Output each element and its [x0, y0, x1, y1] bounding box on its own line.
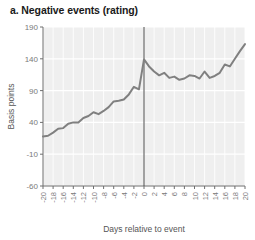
x-axis-tick-label: 4: [160, 192, 169, 196]
y-axis-tick-label: -60: [26, 182, 38, 191]
x-axis-tick-label: -12: [79, 192, 88, 203]
x-axis-tick-label: -14: [69, 192, 78, 203]
y-axis-tick-label: -10: [26, 150, 38, 159]
x-axis-tick-label: 6: [170, 192, 179, 196]
chart-figure: a. Negative events (rating) 1901409040-1…: [0, 0, 255, 240]
x-axis-tick-label: 8: [180, 192, 189, 196]
x-axis-tick-label: 20: [241, 192, 250, 200]
y-axis-tick-label: 190: [25, 23, 39, 32]
x-axis-tick-label: -20: [39, 192, 48, 203]
x-axis-title: Days relative to event: [103, 224, 185, 234]
x-axis-tick-label: 12: [201, 192, 210, 200]
x-axis-tick-label: 18: [231, 192, 240, 200]
x-axis-tick-label: 10: [191, 192, 200, 200]
x-axis-tick-label: 14: [211, 192, 220, 200]
y-axis-title: Basis points: [6, 84, 16, 130]
y-axis-tick-label: 140: [25, 55, 39, 64]
x-axis-tick-label: -8: [100, 192, 109, 199]
x-axis-tick-label: 0: [140, 192, 149, 196]
x-axis-tick-label: -18: [49, 192, 58, 203]
x-axis-tick-label: 16: [221, 192, 230, 200]
y-axis-tick-label: 90: [29, 87, 38, 96]
x-axis-tick-label: -6: [110, 192, 119, 199]
x-axis-tick-label: 2: [150, 192, 159, 196]
chart-plot: 1901409040-10-60-20-18-16-14-12-10-8-6-4…: [0, 0, 255, 240]
x-axis-tick-label: -4: [120, 192, 129, 199]
x-axis-tick-label: -2: [130, 192, 139, 199]
x-axis-tick-label: -16: [59, 192, 68, 203]
x-axis-tick-label: -10: [90, 192, 99, 203]
y-axis-tick-label: 40: [29, 118, 38, 127]
